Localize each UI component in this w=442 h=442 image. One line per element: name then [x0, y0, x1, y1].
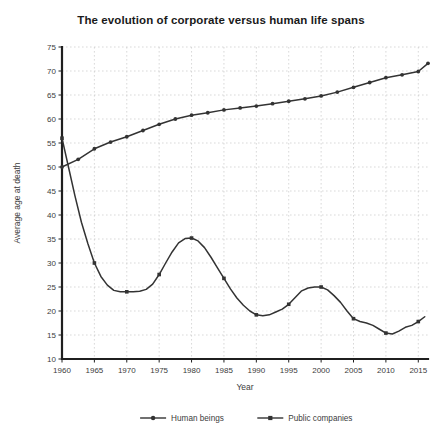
axes-layer: [59, 47, 429, 363]
data-point-marker: [254, 104, 258, 108]
data-point-marker: [335, 90, 339, 94]
legend-marker: [268, 416, 272, 420]
line-chart-canvas: 1015202530354045505560657075196019651970…: [0, 0, 442, 442]
data-point-marker: [222, 108, 226, 112]
x-tick-label: 1970: [118, 366, 136, 375]
data-point-marker: [426, 61, 430, 65]
data-point-marker: [319, 94, 323, 98]
data-point-marker: [287, 302, 291, 306]
y-tick-label: 75: [47, 43, 56, 52]
x-tick-label: 1985: [215, 366, 233, 375]
x-tick-label: 2000: [312, 366, 330, 375]
y-tick-label: 25: [47, 283, 56, 292]
data-point-marker: [352, 85, 356, 89]
data-point-marker: [125, 135, 129, 139]
y-tick-label: 55: [47, 139, 56, 148]
data-point-marker: [157, 122, 161, 126]
x-tick-label: 1965: [85, 366, 103, 375]
data-point-marker: [125, 290, 129, 294]
data-point-marker: [60, 136, 64, 140]
y-tick-label: 30: [47, 259, 56, 268]
data-point-marker: [352, 317, 356, 321]
data-point-marker: [400, 73, 404, 77]
y-tick-label: 40: [47, 211, 56, 220]
x-tick-label: 1980: [183, 366, 201, 375]
legend-marker: [151, 416, 155, 420]
data-point-marker: [76, 157, 80, 161]
legend-label: Public companies: [288, 414, 352, 423]
data-point-marker: [93, 261, 97, 265]
data-point-marker: [190, 236, 194, 240]
data-point-marker: [109, 140, 113, 144]
series-line-1: [62, 63, 428, 167]
data-point-marker: [303, 97, 307, 101]
data-point-marker: [287, 99, 291, 103]
x-tick-label: 1975: [150, 366, 168, 375]
data-point-marker: [157, 273, 161, 277]
y-axis-title: Average age at death: [12, 162, 22, 243]
gridlines-layer: [62, 47, 428, 359]
legend-item[interactable]: Human beings: [140, 414, 224, 423]
data-point-marker: [173, 117, 177, 121]
y-tick-label: 70: [47, 67, 56, 76]
x-axis-title: Year: [236, 382, 253, 392]
x-tick-label: 2010: [377, 366, 395, 375]
x-tick-label: 2005: [345, 366, 363, 375]
x-tick-label: 2015: [409, 366, 427, 375]
y-tick-label: 60: [47, 115, 56, 124]
data-point-marker: [60, 165, 64, 169]
data-point-marker: [416, 70, 420, 74]
legend-item[interactable]: Public companies: [257, 414, 352, 423]
legend: Human beingsPublic companies: [140, 414, 352, 423]
data-point-marker: [384, 76, 388, 80]
x-tick-label: 1960: [53, 366, 71, 375]
y-tick-label: 20: [47, 307, 56, 316]
series-line-2: [62, 138, 425, 334]
y-tick-label: 45: [47, 187, 56, 196]
data-point-marker: [206, 111, 210, 115]
data-point-marker: [319, 285, 323, 289]
y-tick-label: 15: [47, 331, 56, 340]
x-tick-label: 1995: [280, 366, 298, 375]
data-point-marker: [271, 102, 275, 106]
y-tick-label: 50: [47, 163, 56, 172]
y-tick-label: 10: [47, 355, 56, 364]
data-point-marker: [255, 313, 259, 317]
axis-spines: [62, 47, 428, 359]
y-tick-label: 65: [47, 91, 56, 100]
data-point-marker: [92, 147, 96, 151]
chart-figure: The evolution of corporate versus human …: [0, 0, 442, 442]
data-point-marker: [190, 113, 194, 117]
data-point-marker: [141, 129, 145, 133]
series-layer: [60, 61, 430, 334]
data-point-marker: [384, 331, 388, 335]
x-tick-label: 1990: [247, 366, 265, 375]
data-point-marker: [416, 320, 420, 324]
data-point-marker: [222, 277, 226, 281]
data-point-marker: [238, 106, 242, 110]
legend-label: Human beings: [171, 414, 224, 423]
y-tick-label: 35: [47, 235, 56, 244]
data-point-marker: [368, 81, 372, 85]
